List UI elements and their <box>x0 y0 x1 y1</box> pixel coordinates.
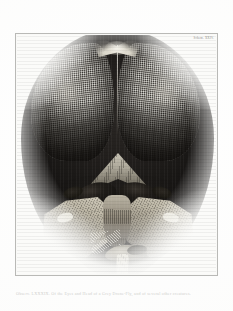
corner-fade-bottom-left <box>17 178 123 274</box>
corner-fade-top-left <box>17 35 101 109</box>
engraving-figure <box>17 35 216 274</box>
plate-number-label: Schem. XXIV. <box>194 36 214 40</box>
engraving-plate-inner: Schem. XXIV. <box>17 35 216 274</box>
engraving-plate-frame: Schem. XXIV. <box>15 33 218 276</box>
corner-fade-top-right <box>134 35 216 109</box>
plate-caption: Observ. LXXXIX. Of the Eyes and Head of … <box>16 291 216 297</box>
corner-fade-bottom-right <box>122 186 216 274</box>
scanned-page: Schem. XXIV. Observ. LXXXIX. Of the Eyes… <box>0 0 233 311</box>
